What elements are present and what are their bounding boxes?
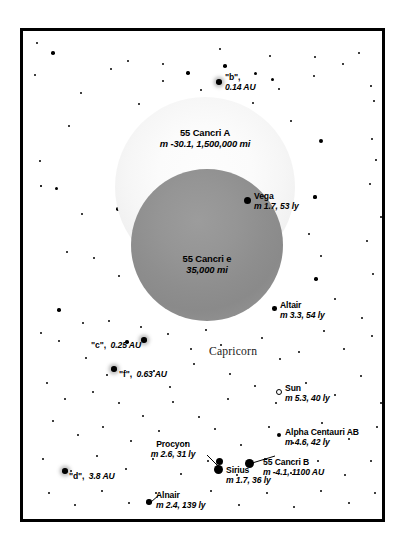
- background-star: [380, 402, 382, 404]
- background-star: [106, 374, 108, 376]
- background-star: [158, 430, 160, 432]
- background-star: [268, 426, 270, 428]
- background-star: [293, 506, 295, 508]
- background-star: [214, 428, 216, 430]
- sun-star-marker[interactable]: [276, 389, 282, 395]
- background-star: [101, 490, 103, 492]
- altair-detail: m 3.3, 54 ly: [280, 310, 325, 320]
- background-star: [40, 185, 42, 187]
- background-star: [375, 159, 377, 161]
- background-star: [370, 85, 372, 87]
- background-star: [371, 335, 373, 337]
- alnair-star-marker[interactable]: [146, 499, 152, 505]
- planet-d-detail: 3.8 AU: [89, 471, 115, 481]
- background-star: [102, 426, 104, 428]
- background-star: [130, 440, 132, 442]
- background-star: [369, 183, 371, 185]
- background-star: [373, 100, 375, 102]
- background-star: [376, 426, 378, 428]
- background-star: [210, 490, 212, 492]
- background-star: [334, 394, 336, 396]
- alpha-centauri-star-marker[interactable]: [277, 433, 281, 437]
- cancri-a-name: 55 Cancri A: [115, 127, 295, 138]
- sirius-star-marker-secondary[interactable]: [216, 458, 223, 465]
- background-star: [140, 326, 142, 328]
- background-star: [46, 382, 48, 384]
- background-star: [372, 273, 374, 275]
- background-star: [40, 332, 42, 334]
- background-star: [162, 80, 164, 82]
- background-star: [313, 75, 315, 77]
- background-star: [261, 337, 263, 339]
- background-star: [55, 187, 58, 190]
- background-star: [313, 195, 316, 198]
- planet-f-label: "f", 0.63 AU: [119, 363, 167, 382]
- background-star: [85, 357, 87, 359]
- background-star: [64, 398, 66, 400]
- planet-b-marker[interactable]: [216, 79, 222, 85]
- cancri-e-name: 55 Cancri e: [131, 253, 283, 264]
- alpha-centauri-name: Alpha Centauri AB: [285, 427, 359, 437]
- sirius-name: Sirius: [226, 465, 271, 475]
- background-star: [252, 102, 254, 104]
- star-field: "b", 0.14 AU 55 Cancri A m -30.1, 1,500,…: [23, 31, 382, 519]
- background-star: [380, 216, 382, 218]
- background-star: [93, 257, 95, 259]
- planet-c-marker[interactable]: [141, 337, 147, 343]
- background-star: [80, 92, 82, 94]
- background-star: [180, 473, 182, 475]
- planet-b-detail: 0.14 AU: [225, 82, 256, 92]
- background-star: [118, 275, 120, 277]
- background-star: [371, 138, 373, 140]
- background-star: [77, 434, 79, 436]
- cancri-a-label: 55 Cancri A m -30.1, 1,500,000 mi: [115, 127, 295, 149]
- background-star: [374, 492, 376, 494]
- background-star: [52, 420, 54, 422]
- sirius-star-marker[interactable]: [214, 465, 223, 474]
- background-star: [343, 348, 345, 350]
- planet-c-detail: 0.25 AU: [110, 340, 141, 350]
- background-star: [266, 492, 268, 494]
- sun-label: Sun m 5.3, 40 ly: [285, 383, 330, 403]
- background-star: [205, 329, 207, 331]
- background-star: [198, 416, 200, 418]
- background-star: [308, 233, 310, 235]
- background-star: [110, 68, 112, 70]
- background-star: [240, 444, 242, 446]
- altair-label: Altair m 3.3, 54 ly: [280, 300, 325, 320]
- planet-b-label: "b", 0.14 AU: [225, 72, 256, 92]
- sun-name: Sun: [285, 383, 330, 393]
- planet-f-marker[interactable]: [111, 366, 117, 372]
- vega-star-marker[interactable]: [244, 197, 251, 204]
- background-star: [323, 330, 325, 332]
- planet-c-name: "c",: [91, 340, 106, 350]
- background-star: [321, 422, 323, 424]
- background-star: [227, 398, 229, 400]
- sirius-label: Sirius m 1.7, 36 ly: [226, 465, 271, 485]
- constellation-label: Capricorn: [209, 345, 257, 358]
- background-star: [57, 308, 60, 311]
- background-star: [169, 386, 171, 388]
- background-star: [66, 251, 68, 253]
- procyon-detail: m 2.6, 31 ly: [135, 449, 211, 459]
- background-star: [128, 502, 130, 504]
- cancri-a-detail: m -30.1, 1,500,000 mi: [115, 138, 295, 149]
- background-star: [275, 402, 277, 404]
- background-star: [92, 391, 94, 393]
- background-star: [167, 333, 169, 335]
- planet-d-marker[interactable]: [62, 468, 68, 474]
- background-star: [254, 385, 256, 387]
- background-star: [358, 52, 360, 54]
- background-star: [314, 56, 316, 58]
- background-star: [223, 64, 227, 68]
- background-star: [290, 120, 292, 122]
- background-star: [142, 415, 144, 417]
- background-star: [34, 74, 36, 76]
- background-star: [348, 502, 350, 504]
- background-star: [81, 213, 83, 215]
- background-star: [361, 317, 363, 319]
- planet-d-label: "d", 3.8 AU: [69, 465, 115, 484]
- background-star: [344, 474, 346, 476]
- altair-star-marker[interactable]: [272, 306, 277, 311]
- background-star: [200, 89, 202, 91]
